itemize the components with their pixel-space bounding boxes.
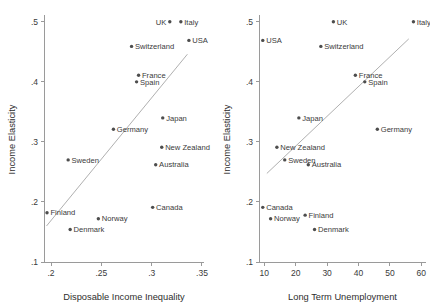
data-point-label: UK <box>156 18 167 27</box>
x-tick-label: 40 <box>354 268 364 278</box>
data-point <box>130 45 133 48</box>
data-point-label: Italy <box>417 18 430 27</box>
data-point <box>154 163 157 166</box>
x-tick-label: .25 <box>95 268 107 278</box>
x-tick-label: .3 <box>148 268 155 278</box>
x-tick-label: .2 <box>47 268 54 278</box>
data-point-label: Norway <box>102 214 128 223</box>
data-point-label: Finland <box>309 211 334 220</box>
y-axis-title: Income Elasticity <box>7 104 17 174</box>
data-point <box>307 163 310 166</box>
data-point <box>261 206 264 209</box>
x-tick-label: 60 <box>417 268 427 278</box>
scatter-plot-right: .1.2.3.4.5102030405060UKItalyUSASwitzerl… <box>215 0 430 307</box>
data-point <box>319 45 322 48</box>
data-point <box>45 211 48 214</box>
regression-line <box>267 39 409 174</box>
data-point <box>363 80 366 83</box>
data-point-label: Australia <box>312 160 342 169</box>
x-tick-label: 50 <box>385 268 395 278</box>
data-point-label: New Zealand <box>280 143 325 152</box>
y-tick-label: .1 <box>31 257 38 267</box>
y-tick-label: .5 <box>31 17 38 27</box>
data-point <box>303 213 306 216</box>
data-point-label: USA <box>266 36 283 45</box>
y-axis-title: Income Elasticity <box>222 104 232 174</box>
y-tick-label: .5 <box>246 17 253 27</box>
x-tick-label: 20 <box>291 268 301 278</box>
data-point-label: Switzerland <box>324 42 363 51</box>
data-point <box>283 158 286 161</box>
data-point <box>168 20 171 23</box>
axis-spines <box>44 15 204 262</box>
data-point <box>275 146 278 149</box>
y-tick-label: .2 <box>246 197 253 207</box>
data-point <box>269 217 272 220</box>
data-point-label: Spain <box>368 78 387 87</box>
data-point <box>66 158 69 161</box>
data-point <box>412 20 415 23</box>
scatter-plot-left: .1.2.3.4.5.2.25.3.35UKItalyUSASwitzerlan… <box>0 0 215 307</box>
data-point <box>297 116 300 119</box>
data-point <box>112 128 115 131</box>
chart-panel-right: .1.2.3.4.5102030405060UKItalyUSASwitzerl… <box>215 0 430 307</box>
data-point-label: Canada <box>156 203 183 212</box>
data-point-label: Japan <box>302 114 323 123</box>
y-tick-label: .3 <box>246 137 253 147</box>
data-point <box>313 228 316 231</box>
data-point <box>376 128 379 131</box>
data-point-label: Germany <box>117 125 148 134</box>
data-point-label: Switzerland <box>135 42 174 51</box>
data-point <box>354 74 357 77</box>
data-point <box>135 80 138 83</box>
x-tick-label: 30 <box>322 268 332 278</box>
x-tick-label: .35 <box>196 268 208 278</box>
data-point-label: New Zealand <box>165 143 210 152</box>
data-point-label: Japan <box>166 114 187 123</box>
data-point-label: UK <box>337 18 348 27</box>
x-axis-title: Disposable Income Inequality <box>63 292 185 302</box>
data-point-label: Denmark <box>318 225 349 234</box>
data-point-label: Germany <box>381 125 412 134</box>
y-tick-label: .2 <box>31 197 38 207</box>
scatter-figure: .1.2.3.4.5.2.25.3.35UKItalyUSASwitzerlan… <box>0 0 430 307</box>
data-point <box>97 217 100 220</box>
data-point-label: Norway <box>274 214 300 223</box>
data-point <box>68 228 71 231</box>
chart-panel-left: .1.2.3.4.5.2.25.3.35UKItalyUSASwitzerlan… <box>0 0 215 307</box>
data-point-label: Sweden <box>72 156 99 165</box>
y-tick-label: .4 <box>246 77 253 87</box>
data-point <box>137 74 140 77</box>
data-point-label: Italy <box>184 18 198 27</box>
data-point <box>179 20 182 23</box>
data-point-label: Denmark <box>74 225 105 234</box>
data-point <box>161 116 164 119</box>
data-point <box>332 20 335 23</box>
data-point <box>261 39 264 42</box>
y-tick-label: .1 <box>246 257 253 267</box>
data-point-label: Finland <box>50 208 75 217</box>
y-tick-label: .3 <box>31 137 38 147</box>
x-axis-title: Long Term Unemployment <box>288 292 397 302</box>
data-point-label: Australia <box>159 160 189 169</box>
data-point-label: USA <box>192 36 209 45</box>
data-point <box>160 146 163 149</box>
regression-line <box>47 54 188 226</box>
y-tick-label: .4 <box>31 77 38 87</box>
data-point <box>151 206 154 209</box>
data-point <box>187 39 190 42</box>
data-point-label: Spain <box>140 78 159 87</box>
data-point-label: Canada <box>266 203 293 212</box>
x-tick-label: 10 <box>260 268 270 278</box>
